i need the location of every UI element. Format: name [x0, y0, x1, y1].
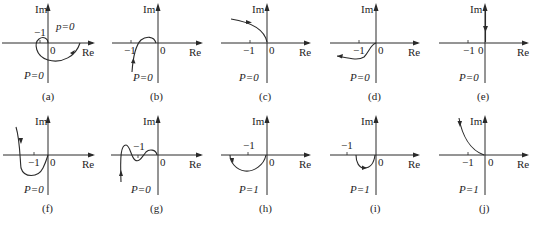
im-label: Im [361, 3, 374, 15]
p-label: P=0 [23, 183, 44, 195]
p-label: P=0 [23, 69, 44, 81]
caption: (f) [42, 202, 53, 215]
im-axis-arrow-icon [483, 115, 488, 123]
minus-one-label: −1 [341, 139, 353, 151]
direction-arrow-icon [131, 58, 136, 64]
re-label: Re [299, 46, 311, 58]
panel-g: Im Re 0 −1 P=0 (g) [111, 115, 203, 215]
minus-one-label: −1 [243, 44, 255, 56]
panel-h: Im Re 0 −1 P=1 (h) [221, 115, 311, 215]
caption: (d) [368, 90, 381, 103]
p-label: P=0 [130, 183, 151, 195]
caption: (i) [370, 202, 381, 215]
p-label: P=1 [238, 183, 259, 195]
minus-one-label: −1 [353, 44, 365, 56]
origin-label: 0 [488, 156, 494, 168]
re-label: Re [408, 158, 420, 170]
im-label: Im [35, 3, 48, 15]
re-axis-arrow-icon [88, 153, 95, 158]
im-label: Im [252, 115, 265, 127]
caption: (b) [150, 90, 163, 103]
panel-a: Im Re 0 −1 p=0 P=0 (a) [2, 3, 95, 103]
origin-label: 0 [160, 44, 166, 56]
p-label: P=0 [132, 71, 153, 83]
im-axis-arrow-icon [374, 3, 379, 11]
caption: (g) [150, 202, 163, 215]
im-label: Im [361, 115, 374, 127]
origin-label: 0 [378, 156, 384, 168]
re-label: Re [517, 46, 529, 58]
im-axis-arrow-icon [483, 3, 488, 11]
re-axis-arrow-icon [413, 153, 420, 158]
im-label: Im [252, 3, 265, 15]
caption: (a) [42, 90, 55, 103]
re-axis-arrow-icon [196, 153, 203, 158]
caption: (h) [259, 202, 272, 215]
im-label: Im [35, 115, 48, 127]
origin-label: 0 [378, 44, 384, 56]
p-label: P=1 [349, 183, 370, 195]
caption: (j) [479, 202, 490, 215]
p-label: P=0 [458, 71, 479, 83]
minus-one-label: −1 [133, 140, 145, 152]
panel-c: Im Re 0 −1 P=0 (c) [221, 3, 311, 103]
minus-one-label: −1 [34, 26, 46, 38]
panel-b: Im Re 0 −1 P=0 (b) [112, 3, 203, 103]
origin-label: 0 [160, 156, 166, 168]
im-axis-arrow-icon [156, 3, 161, 11]
minus-one-label: −1 [462, 156, 474, 168]
re-label: Re [82, 46, 94, 58]
direction-arrow-icon [119, 170, 123, 176]
re-label: Re [517, 158, 529, 170]
direction-arrow-icon [362, 166, 367, 171]
nyquist-curve [230, 155, 266, 171]
re-axis-arrow-icon [304, 41, 311, 46]
minus-one-label: −1 [463, 44, 475, 56]
panel-f: Im Re 0 −1 P=0 (f) [3, 115, 95, 215]
im-label: Im [143, 115, 156, 127]
re-label: Re [189, 46, 201, 58]
nyquist-curve [16, 127, 48, 176]
origin-label: 0 [50, 44, 56, 56]
re-label: Re [408, 46, 420, 58]
im-label: Im [470, 3, 483, 15]
im-axis-arrow-icon [374, 115, 379, 123]
origin-label: 0 [478, 44, 484, 56]
re-axis-arrow-icon [88, 41, 95, 46]
re-label: Re [189, 158, 201, 170]
nyquist-curve [36, 38, 80, 61]
p-label: P=0 [238, 71, 259, 83]
p-label: P=1 [458, 183, 479, 195]
nyquist-curve [356, 155, 375, 168]
nyquist-plot-grid: Im Re 0 −1 p=0 P=0 (a) Im Re 0 −1 P=0 (b… [0, 0, 534, 226]
direction-arrow-icon [483, 26, 488, 32]
panel-j: Im Re 0 −1 P=1 (j) [439, 115, 529, 215]
origin-label: 0 [269, 156, 275, 168]
im-axis-arrow-icon [265, 115, 270, 123]
re-axis-arrow-icon [522, 41, 529, 46]
direction-arrow-icon [337, 54, 343, 59]
p-label-top: p=0 [55, 20, 75, 32]
im-label: Im [470, 115, 483, 127]
panel-d: Im Re 0 −1 P=0 (d) [330, 3, 420, 103]
re-axis-arrow-icon [413, 41, 420, 46]
re-label: Re [299, 158, 311, 170]
caption: (c) [259, 90, 272, 103]
re-axis-arrow-icon [196, 41, 203, 46]
im-label: Im [143, 3, 156, 15]
im-axis-arrow-icon [156, 115, 161, 123]
im-axis-arrow-icon [265, 3, 270, 11]
re-axis-arrow-icon [522, 153, 529, 158]
panel-i: Im Re 0 −1 P=1 (i) [330, 115, 420, 215]
minus-one-label: −1 [243, 139, 255, 151]
caption: (e) [477, 90, 490, 103]
re-axis-arrow-icon [304, 153, 311, 158]
p-label: P=0 [349, 71, 370, 83]
minus-one-label: −1 [28, 156, 40, 168]
re-label: Re [82, 158, 94, 170]
origin-label: 0 [269, 44, 275, 56]
panel-e: Im Re 0 −1 P=0 (e) [439, 3, 529, 103]
origin-label: 0 [50, 156, 56, 168]
